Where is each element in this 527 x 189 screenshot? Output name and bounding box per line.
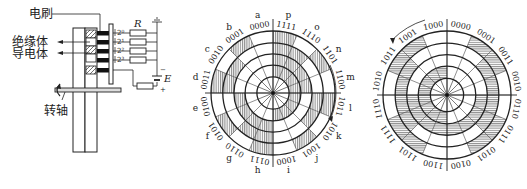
bit-weight-0: 2⁰: [117, 29, 124, 37]
sector-letter: c: [205, 44, 210, 54]
resistor-label: R: [133, 18, 142, 29]
sector-letter: d: [193, 72, 199, 82]
code-label: 0100: [199, 96, 212, 118]
code-label: 0011: [199, 69, 212, 91]
resistor-bank: [130, 30, 153, 89]
sector-letter: b: [226, 22, 232, 32]
encoder-assembly: 电刷 绝缘体 导电体 转轴: [12, 7, 172, 152]
code-label: 1110: [371, 98, 384, 120]
minus-label: −: [160, 66, 166, 74]
load-resistor: [137, 83, 153, 89]
gray-code-disc: [377, 19, 517, 171]
code-label: 1010: [371, 70, 384, 92]
code-label: 1000: [422, 19, 444, 32]
sector-letter: m: [346, 72, 355, 82]
sector-letter: n: [336, 44, 342, 54]
code-disc-figure: 电刷 绝缘体 导电体 转轴: [0, 0, 527, 189]
sector-letter: e: [193, 103, 198, 113]
code-label: 0000: [450, 19, 472, 32]
sector-letter: i: [287, 165, 290, 175]
source-label: E: [163, 73, 172, 84]
bit-weight-2: 2²: [117, 47, 124, 55]
code-label: 0100: [450, 158, 472, 171]
sector-letter: k: [336, 131, 342, 141]
plus-label: +: [160, 86, 166, 94]
sector-letter: g: [226, 153, 232, 163]
brush-label: 电刷: [29, 7, 53, 21]
sector-letter: a: [255, 10, 261, 20]
resistor-bit1: [130, 39, 146, 45]
conductor-label: 导电体: [12, 47, 48, 61]
code-label: 0000: [249, 19, 271, 32]
shaft-label: 转轴: [44, 103, 68, 118]
sector-letter: h: [255, 165, 261, 175]
sector-letter: j: [314, 153, 318, 163]
resistor-bit2: [130, 48, 146, 54]
sector-letter: l: [349, 103, 352, 113]
resistor-bit3: [130, 57, 146, 63]
bit-weight-1: 2¹: [117, 38, 124, 46]
sector-letter: o: [314, 22, 319, 32]
code-label: 1100: [422, 158, 444, 171]
bit-weight-3: 2³: [117, 56, 124, 64]
resistor-bit0: [130, 30, 146, 36]
sector-letter: f: [206, 131, 210, 141]
sector-letter: p: [286, 10, 292, 20]
code-label: 1111: [276, 19, 298, 32]
code-label: 0010: [510, 70, 523, 92]
code-label: 0110: [510, 98, 523, 120]
